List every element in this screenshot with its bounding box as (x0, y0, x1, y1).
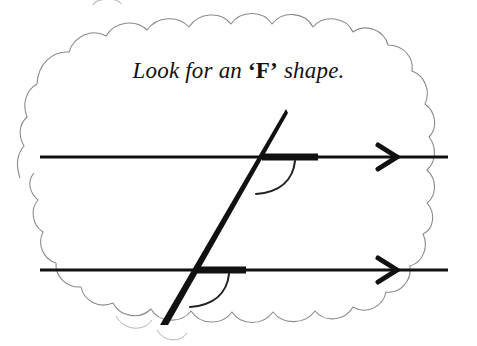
cloud-outline-path (18, 14, 435, 323)
geometry-diagram-svg (0, 0, 477, 346)
cloud-bubble-fragment-icon (93, 0, 121, 5)
figure-container: Look for an ‘F’ shape. (0, 0, 477, 346)
cloud-tail-scallop-icon (116, 316, 152, 328)
thought-bubble-cloud (18, 0, 435, 340)
cloud-tail-scallop-small-icon (157, 330, 187, 340)
